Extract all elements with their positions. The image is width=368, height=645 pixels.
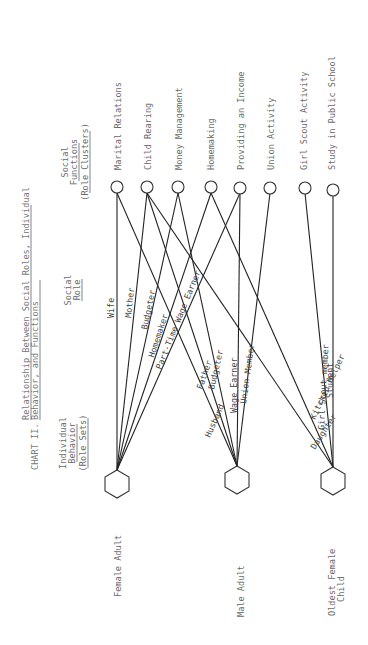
role-labels: Wife Mother Budgeter Homemaker Part-Time… [106,269,347,451]
function-label-0: Marital Relations [113,82,123,170]
actor-nodes [105,466,345,498]
actor-node-female-adult [105,470,129,498]
role-wife: Wife [106,298,116,318]
header-social-functions: Social Functions (Role Clusters) [60,123,90,201]
header-individual-behavior: Individual Behavior (Role Sets) [58,415,88,472]
connection-lines [117,193,333,470]
actor-label-male-adult: Male Adult [236,565,246,617]
function-label-1: Child Rearing [143,103,153,170]
actor-node-male-adult [225,466,249,494]
function-node-marital-relations [111,181,123,193]
actor-labels: Female Adult Male Adult Oldest Female Ch… [113,535,346,617]
svg-text:(Role Clusters): (Role Clusters) [80,123,90,201]
function-label-4: Providing an Income [236,72,246,170]
svg-text:Role: Role [72,280,82,301]
role-budgeter-female: Budgeter [139,289,157,331]
actor-label-female-adult: Female Adult [113,535,123,597]
function-node-providing-income [234,182,246,194]
role-union-member: Union Member [238,343,256,404]
function-label-7: Study in Public School [327,56,337,170]
role-wage-earner: Wage Earner [229,358,239,413]
function-labels: Marital Relations Child Rearing Money Ma… [113,56,337,170]
svg-text:Behavior: Behavior [67,422,77,463]
function-node-study-public-school [327,184,339,196]
function-label-5: Union Activity [266,98,276,170]
function-node-money-management [172,181,184,193]
role-student: Student [325,363,335,398]
function-node-union-activity [264,182,276,194]
svg-text:Functions: Functions [69,139,79,186]
function-label-6: Girl Scout Activity [299,72,309,170]
chart-number: CHART II. [30,423,40,470]
function-label-2: Money Management [174,87,184,170]
function-node-girl-scout-activity [299,182,311,194]
chart-title-line2: Behavior, and Functions [30,301,40,420]
function-node-child-rearing [141,181,153,193]
function-label-3: Homemaking [206,118,216,170]
actor-node-oldest-female-child [321,467,345,495]
function-node-homemaking [205,181,217,193]
role-diagram: CHART II. Relationship Between Social Ro… [0,0,368,645]
actor-label-oldest-female-child-2: Child [336,576,346,602]
svg-text:(Role Sets): (Role Sets) [78,415,88,472]
function-nodes [111,181,339,196]
header-social-role: Social Role [63,274,82,305]
